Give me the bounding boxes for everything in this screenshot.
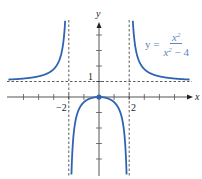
equation-denominator: x2 − 4 xyxy=(162,44,190,58)
x-tick-label-2: 2 xyxy=(131,102,136,113)
x-tick-label-neg2: −2 xyxy=(56,102,67,113)
equation-label: y = x2 x2 − 4 xyxy=(145,30,190,58)
equation-numerator: x2 xyxy=(170,30,182,44)
origin-point xyxy=(96,94,101,99)
equation-lhs: y = xyxy=(145,38,159,50)
equation-fraction: x2 x2 − 4 xyxy=(162,30,190,58)
y-axis-label: y xyxy=(95,8,101,19)
y-tick-label-1: 1 xyxy=(88,71,93,82)
chart-plot: x y −2 2 1 xyxy=(0,0,202,179)
x-axis-label: x xyxy=(194,91,200,102)
